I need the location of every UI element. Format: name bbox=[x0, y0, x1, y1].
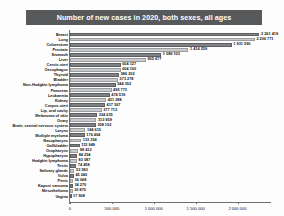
chart-title-banner: Number of new cases in 2020, both sexes,… bbox=[26, 10, 262, 25]
bar bbox=[70, 73, 119, 77]
bar bbox=[70, 43, 232, 47]
x-axis-tick-label: 500 000 bbox=[104, 206, 119, 211]
x-axis-tick bbox=[196, 202, 197, 204]
bar-track: 17 908 bbox=[70, 194, 284, 199]
x-axis-tick-label: 0 bbox=[69, 206, 71, 211]
bar bbox=[70, 179, 73, 183]
bar bbox=[70, 83, 116, 87]
x-axis-tick bbox=[70, 202, 71, 204]
bar bbox=[70, 159, 77, 163]
bar bbox=[70, 139, 81, 143]
bar bbox=[70, 63, 121, 67]
bar bbox=[70, 154, 77, 158]
x-axis-tick bbox=[154, 202, 155, 204]
x-axis: 0500 0001 000 0001 500 0002 000 000 bbox=[70, 202, 278, 216]
bar bbox=[70, 58, 146, 62]
bar-rows: Breast2 261 419Lung2 206 771Colorectum1 … bbox=[0, 32, 284, 199]
bar bbox=[70, 108, 102, 112]
bar bbox=[70, 53, 161, 57]
category-label: Vagina bbox=[0, 194, 70, 199]
bar bbox=[70, 88, 112, 92]
bar bbox=[70, 189, 73, 193]
bar bbox=[70, 164, 76, 168]
bar bbox=[70, 169, 74, 173]
x-axis-tick-label: 2 000 000 bbox=[228, 206, 246, 211]
x-axis-tick-label: 1 500 000 bbox=[187, 206, 205, 211]
bar bbox=[70, 123, 96, 127]
x-axis-tick bbox=[238, 202, 239, 204]
chart-page: Number of new cases in 2020, both sexes,… bbox=[0, 0, 284, 216]
bar-value-label: 17 908 bbox=[73, 194, 85, 199]
bar bbox=[70, 93, 110, 97]
bar bbox=[70, 33, 259, 37]
bar bbox=[70, 68, 121, 72]
bar bbox=[70, 128, 85, 132]
plot-area: Breast2 261 419Lung2 206 771Colorectum1 … bbox=[0, 30, 284, 216]
bar bbox=[70, 113, 97, 117]
bar bbox=[70, 98, 106, 102]
bar bbox=[70, 118, 96, 122]
chart-title: Number of new cases in 2020, both sexes,… bbox=[57, 13, 232, 22]
bar-row: Vagina17 908 bbox=[0, 194, 284, 199]
bar bbox=[70, 194, 72, 198]
bar bbox=[70, 174, 74, 178]
bar bbox=[70, 184, 73, 188]
bar bbox=[70, 144, 80, 148]
bar bbox=[70, 38, 255, 42]
x-axis-tick bbox=[112, 202, 113, 204]
bar bbox=[70, 103, 105, 107]
bar bbox=[70, 78, 118, 82]
bar bbox=[70, 133, 85, 137]
x-axis-line bbox=[70, 202, 271, 203]
bar bbox=[70, 149, 78, 153]
x-axis-tick-label: 1 000 000 bbox=[145, 206, 163, 211]
bar bbox=[70, 48, 188, 52]
